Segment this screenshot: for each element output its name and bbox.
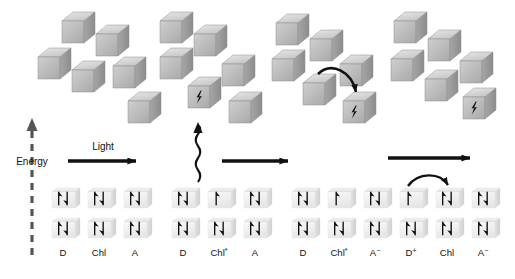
panel-4-label-chl: Chl bbox=[440, 247, 454, 258]
panel-1-label-a: A bbox=[132, 247, 139, 258]
light-arrow-label: Light bbox=[92, 141, 114, 152]
panel-2-label-d: D bbox=[180, 247, 187, 258]
chl-excited-top-orbital-p3 bbox=[328, 188, 356, 208]
panel-2-label-a: A bbox=[252, 247, 259, 258]
chl-excited-top-orbital bbox=[208, 188, 236, 208]
panel4-cube-with-bolt bbox=[463, 88, 496, 119]
panel-3-label-d: D bbox=[300, 247, 307, 258]
d-cation-top-orbital bbox=[400, 188, 428, 208]
diagram-canvas: Energy bbox=[0, 0, 515, 279]
excited-cube-with-bolt bbox=[188, 77, 221, 108]
panel-1-label-d: D bbox=[60, 247, 67, 258]
accepted-cube-with-bolt bbox=[343, 92, 376, 123]
energy-axis-label: Energy bbox=[16, 156, 48, 167]
a-anion-top-orbital bbox=[364, 188, 392, 208]
panel-1-label-chl: Chl bbox=[92, 247, 106, 258]
